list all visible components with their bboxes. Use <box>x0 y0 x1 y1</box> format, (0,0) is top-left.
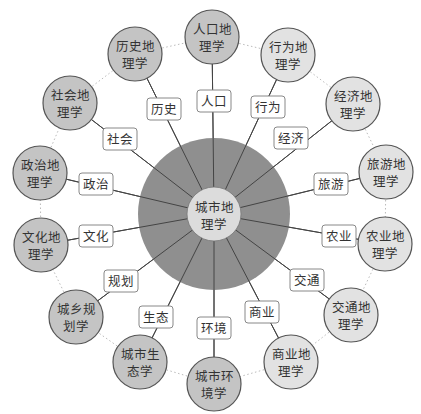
node-label-line2: 理学 <box>340 106 366 121</box>
node-label-line1: 城市环 <box>195 369 234 384</box>
edge-label-text: 人口 <box>201 94 227 109</box>
center-label-line2: 理学 <box>201 217 227 232</box>
urban-geography-diagram: 城市地 理学 人口行为经济旅游农业交通商业环境生态规划文化政治社会历史 人口地理… <box>0 0 421 414</box>
edge-label: 旅游 <box>314 173 348 195</box>
node-circle <box>326 77 380 131</box>
edge-label: 经济 <box>274 127 308 149</box>
node-label-line2: 理学 <box>27 175 53 190</box>
edge-label: 社会 <box>103 128 137 150</box>
node-label-line1: 文化地 <box>22 230 61 245</box>
node-label-line1: 城乡规 <box>57 302 96 317</box>
node-label-line1: 经济地 <box>334 89 373 104</box>
node-label-line2: 理学 <box>275 57 301 72</box>
discipline-node: 商业地理学 <box>264 335 318 389</box>
node-label-line2: 理学 <box>122 56 148 71</box>
node-label-line1: 农业地 <box>366 229 405 244</box>
edge-label-text: 行为 <box>255 100 281 115</box>
edge-label: 商业 <box>245 301 279 323</box>
edge-label-text: 商业 <box>249 305 275 320</box>
node-circle <box>359 145 413 199</box>
discipline-node: 历史地理学 <box>108 27 162 81</box>
node-circle <box>264 335 318 389</box>
node-circle <box>43 76 97 130</box>
node-label-line2: 理学 <box>28 247 54 262</box>
node-label-line1: 城市生 <box>121 347 160 362</box>
node-circle <box>261 28 315 82</box>
center-label-line1: 城市地 <box>195 200 234 215</box>
node-label-line1: 社会地 <box>51 88 90 103</box>
node-label-line2: 理学 <box>199 39 225 54</box>
discipline-node: 交通地理学 <box>324 288 378 342</box>
node-circle <box>113 335 167 389</box>
edge-label-text: 经济 <box>278 131 304 146</box>
edge-label-text: 旅游 <box>318 177 344 192</box>
discipline-node: 农业地理学 <box>358 217 412 271</box>
node-circle <box>49 290 103 344</box>
node-circle <box>324 288 378 342</box>
node-label-line1: 政治地 <box>21 158 60 173</box>
discipline-node: 旅游地理学 <box>359 145 413 199</box>
discipline-node: 文化地理学 <box>14 218 68 272</box>
node-label-line2: 境学 <box>201 386 227 401</box>
node-label-line2: 理学 <box>372 246 398 261</box>
edge-label: 规划 <box>104 270 138 292</box>
edge-label: 行为 <box>251 96 285 118</box>
discipline-node: 经济地理学 <box>326 77 380 131</box>
edge-label-text: 规划 <box>108 274 134 289</box>
discipline-node: 人口地理学 <box>185 10 239 64</box>
node-label-line2: 划学 <box>63 319 89 334</box>
edge-label-text: 交通 <box>294 273 320 288</box>
edge-label-text: 环境 <box>201 321 227 336</box>
discipline-node: 城乡规划学 <box>49 290 103 344</box>
node-circle <box>185 10 239 64</box>
node-label-line2: 理学 <box>373 174 399 189</box>
node-label-line2: 理学 <box>57 105 83 120</box>
edge-label-text: 生态 <box>143 310 169 325</box>
discipline-node: 城市环境学 <box>187 357 241 411</box>
edge-label: 生态 <box>139 306 173 328</box>
edge-label-text: 社会 <box>107 132 133 147</box>
node-label-line1: 旅游地 <box>367 157 406 172</box>
node-label-line1: 行为地 <box>269 40 308 55</box>
edge-label: 文化 <box>79 225 113 247</box>
node-label-line1: 历史地 <box>116 39 155 54</box>
node-label-line2: 理学 <box>278 364 304 379</box>
node-label-line1: 交通地 <box>332 300 371 315</box>
node-label-line2: 态学 <box>127 364 153 379</box>
edge-label: 历史 <box>147 98 181 120</box>
discipline-node: 城市生态学 <box>113 335 167 389</box>
edge-label: 环境 <box>197 317 231 339</box>
discipline-node: 政治地理学 <box>13 146 67 200</box>
edge-label: 农业 <box>322 225 356 247</box>
edge-label-text: 农业 <box>326 229 352 244</box>
node-circle <box>14 218 68 272</box>
edge-label-text: 政治 <box>83 177 109 192</box>
edge-label: 人口 <box>197 90 231 112</box>
edge-label: 交通 <box>290 269 324 291</box>
node-label-line2: 理学 <box>338 317 364 332</box>
node-label-line1: 商业地 <box>272 347 311 362</box>
node-circle <box>108 27 162 81</box>
discipline-node: 社会地理学 <box>43 76 97 130</box>
edge-label: 政治 <box>79 173 113 195</box>
node-circle <box>358 217 412 271</box>
edge-label-text: 文化 <box>83 229 109 244</box>
edge-label-text: 历史 <box>151 102 177 117</box>
node-circle <box>187 357 241 411</box>
node-circle <box>13 146 67 200</box>
node-label-line1: 人口地 <box>193 22 232 37</box>
discipline-node: 行为地理学 <box>261 28 315 82</box>
